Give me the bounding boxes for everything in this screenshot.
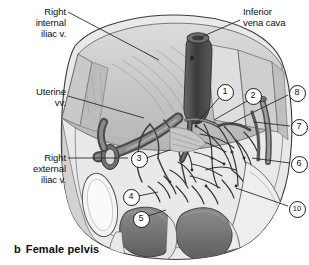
marker-4[interactable]: 4 — [123, 189, 140, 206]
marker-3[interactable]: 3 — [131, 151, 148, 168]
caption-letter: b — [14, 243, 21, 255]
label-right-internal-iliac-vein: Right internal iliac v. — [4, 6, 66, 39]
marker-5[interactable]: 5 — [133, 211, 150, 228]
marker-2[interactable]: 2 — [245, 88, 262, 105]
caption-text: Female pelvis — [26, 243, 99, 255]
figure-female-pelvis: Right internal iliac v. Inferior vena ca… — [0, 0, 309, 265]
marker-7[interactable]: 7 — [291, 119, 308, 136]
label-inferior-vena-cava: Inferior vena cava — [243, 6, 307, 28]
anatomical-illustration — [0, 0, 309, 265]
marker-1[interactable]: 1 — [217, 84, 234, 101]
marker-10[interactable]: 10 — [289, 201, 306, 218]
marker-6[interactable]: 6 — [291, 156, 308, 173]
marker-8[interactable]: 8 — [289, 85, 306, 102]
label-uterine-veins: Uterine vv. — [4, 86, 66, 108]
figure-caption: bFemale pelvis — [14, 243, 99, 255]
label-right-external-iliac-vein: Right external iliac v. — [4, 152, 66, 185]
